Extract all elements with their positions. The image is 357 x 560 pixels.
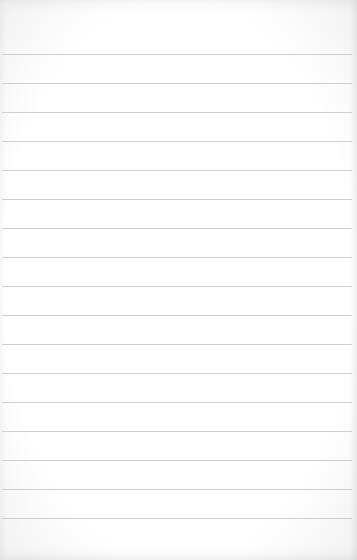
- ruled-line: [2, 228, 352, 229]
- ruled-line: [2, 460, 352, 461]
- ruled-line: [2, 170, 352, 171]
- ruled-line: [2, 141, 352, 142]
- ruled-line: [2, 257, 352, 258]
- ruled-line: [2, 431, 352, 432]
- ruled-line: [2, 112, 352, 113]
- ruled-line: [2, 286, 352, 287]
- lined-paper-sheet: [0, 0, 357, 560]
- ruled-line: [2, 344, 352, 345]
- ruled-line: [2, 373, 352, 374]
- ruled-line: [2, 402, 352, 403]
- ruled-line: [2, 489, 352, 490]
- ruled-line: [2, 518, 352, 519]
- ruled-line: [2, 315, 352, 316]
- ruled-line: [2, 83, 352, 84]
- ruled-line: [2, 199, 352, 200]
- ruled-line: [2, 54, 352, 55]
